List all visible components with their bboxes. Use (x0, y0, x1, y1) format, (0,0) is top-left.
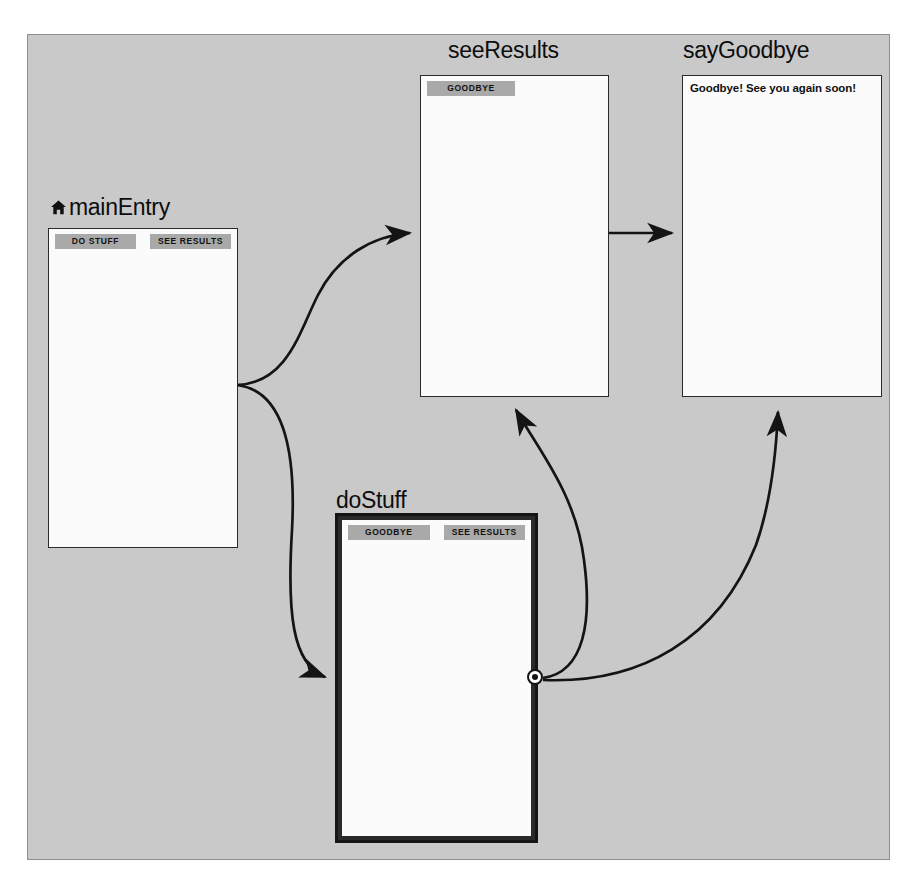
connection-handle-dostuff[interactable] (527, 669, 543, 685)
screen-dostuff[interactable]: GOODBYE SEE RESULTS (335, 513, 538, 843)
button-goodbye[interactable]: GOODBYE (427, 81, 515, 96)
screen-label-text: mainEntry (69, 194, 170, 220)
screen-seeresults[interactable]: GOODBYE (420, 75, 609, 397)
screen-label-seeresults: seeResults (448, 39, 559, 62)
diagram-stage: mainEntry DO STUFF SEE RESULTS seeResult… (0, 0, 916, 882)
screen-label-text: sayGoodbye (683, 37, 809, 63)
button-do-stuff[interactable]: DO STUFF (55, 234, 136, 249)
screen-body-seeresults: GOODBYE (421, 76, 608, 396)
goodbye-message-text: Goodbye! See you again soon! (690, 82, 856, 94)
screen-body-mainentry: DO STUFF SEE RESULTS (49, 229, 237, 547)
screen-label-text: seeResults (448, 37, 559, 63)
screen-label-dostuff: doStuff (336, 489, 406, 512)
button-goodbye[interactable]: GOODBYE (348, 525, 430, 540)
screen-label-mainentry: mainEntry (50, 196, 170, 220)
button-see-results[interactable]: SEE RESULTS (150, 234, 231, 249)
screen-body-saygoodbye: Goodbye! See you again soon! (683, 76, 881, 396)
screen-label-text: doStuff (336, 487, 406, 513)
screen-body-dostuff: GOODBYE SEE RESULTS (341, 519, 532, 837)
screen-label-saygoodbye: sayGoodbye (683, 39, 809, 62)
button-row-dostuff: GOODBYE SEE RESULTS (348, 525, 525, 540)
button-row-mainentry: DO STUFF SEE RESULTS (55, 234, 231, 249)
screen-saygoodbye[interactable]: Goodbye! See you again soon! (682, 75, 882, 397)
screen-mainentry[interactable]: DO STUFF SEE RESULTS (48, 228, 238, 548)
button-row-seeresults: GOODBYE (427, 81, 602, 96)
button-see-results[interactable]: SEE RESULTS (444, 525, 526, 540)
home-icon (50, 197, 67, 220)
